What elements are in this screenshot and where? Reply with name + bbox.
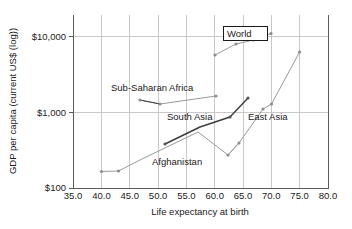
sub-saharan-africa-point [214, 94, 217, 97]
afghanistan-point [117, 169, 120, 172]
world-label: World [227, 28, 252, 39]
x-tick-label-80: 80.0 [319, 190, 338, 201]
x-axis-ticks: 35.0 40.0 45.0 50.0 55.0 60.0 65.0 70.0 … [64, 190, 338, 201]
gdp-life-expectancy-scatter-line-chart: $10,000 $1,000 $100 35.0 40.0 45.0 50.0 … [0, 0, 352, 229]
x-tick-label-55: 55.0 [177, 190, 196, 201]
annotation-world: World [223, 26, 267, 40]
afghanistan-label: Afghanistan [152, 156, 202, 167]
chart-figure: $10,000 $1,000 $100 35.0 40.0 45.0 50.0 … [0, 0, 352, 229]
south-asia-point [228, 115, 231, 118]
sub-saharan-africa-line [140, 96, 216, 104]
sub-saharan-africa-label: Sub-Saharan Africa [111, 82, 194, 93]
east-asia-label: East Asia [248, 111, 288, 122]
x-tick-label-70: 70.0 [262, 190, 281, 201]
world-point [213, 53, 216, 56]
east-asia-point [270, 102, 273, 105]
south-asia-point [246, 96, 249, 99]
east-asia-line [228, 52, 300, 155]
sub-saharan-africa-point [138, 98, 141, 101]
y-axis-title: GDP per capita (current US$ (log)) [7, 28, 18, 174]
y-tick-label-10000: $10,000 [32, 31, 66, 42]
world-point [269, 32, 272, 35]
east-asia-point [237, 141, 240, 144]
x-axis-title: Life expectancy at birth [151, 206, 249, 217]
south-asia-point [163, 142, 166, 145]
east-asia-point [298, 50, 301, 53]
east-asia-point [226, 153, 229, 156]
x-tick-label-65: 65.0 [234, 190, 253, 201]
x-tick-label-40: 40.0 [92, 190, 111, 201]
sub-saharan-africa-leader-line [140, 100, 160, 104]
world-point [234, 42, 237, 45]
y-tick-label-1000: $1,000 [37, 107, 66, 118]
x-tick-label-35: 35.0 [64, 190, 83, 201]
x-tick-label-60: 60.0 [205, 190, 224, 201]
sub-saharan-africa-point [158, 102, 161, 105]
y-axis-ticks: $10,000 $1,000 $100 [32, 31, 73, 193]
south-asia-label: South Asia [167, 111, 213, 122]
afghanistan-point [100, 170, 103, 173]
series-east-asia [226, 50, 301, 156]
x-tick-label-50: 50.0 [149, 190, 168, 201]
series-sub-saharan-africa [138, 94, 217, 105]
x-tick-label-75: 75.0 [290, 190, 309, 201]
x-tick-label-45: 45.0 [121, 190, 140, 201]
